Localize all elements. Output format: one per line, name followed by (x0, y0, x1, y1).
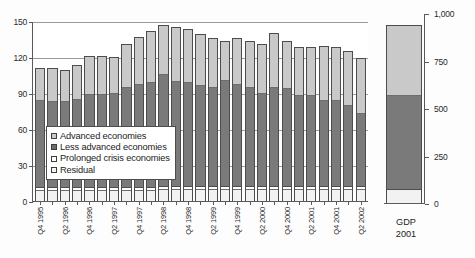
main-chart-panel: 0306090120150 Q4 1995Q2 1996Q4 1996Q2 19… (0, 0, 372, 258)
legend-item-less-advanced: Less advanced economies (51, 142, 170, 153)
y-axis-label: 90 (18, 89, 27, 99)
legend-item-advanced: Advanced economies (51, 131, 170, 142)
gdp-axis-tick (425, 157, 429, 158)
y-axis-label: 60 (18, 125, 27, 135)
bar-slot: Q4 2001 (330, 22, 342, 201)
bar-segment-residual (270, 190, 278, 201)
stacked-bar (306, 47, 316, 201)
bar-segment-residual (196, 190, 204, 201)
gdp-caption-year: 2001 (380, 228, 432, 240)
x-axis-label: Q4 2001 (332, 207, 341, 235)
stacked-bar (183, 29, 193, 201)
x-axis-tick (225, 201, 226, 205)
stacked-bar (319, 46, 329, 201)
bar-segment-less-advanced (320, 101, 328, 187)
gdp-panel: 02505007501,000 GDP 2001 (380, 0, 475, 258)
gdp-axis-label: 500 (434, 104, 448, 114)
x-axis-label: Q4 1996 (85, 207, 94, 235)
x-axis-label: Q4 1998 (184, 207, 193, 235)
x-axis-tick (324, 201, 325, 205)
x-axis-tick (102, 201, 103, 205)
bar-segment-residual (221, 190, 229, 201)
bar-slot (268, 22, 280, 201)
x-axis-tick (89, 201, 90, 205)
x-axis-tick (163, 201, 164, 205)
bar-segment-advanced (332, 48, 340, 100)
bar-segment-advanced (283, 42, 291, 89)
bar-segment-residual (332, 190, 340, 201)
stacked-bar (195, 34, 205, 201)
x-axis-tick (361, 201, 362, 205)
stacked-bar (269, 33, 279, 201)
bar-segment-advanced (85, 57, 93, 95)
bar-segment-residual (122, 191, 130, 201)
bar-segment-less-advanced (246, 88, 254, 187)
gdp-caption: GDP 2001 (380, 216, 432, 241)
bar-segment-residual (172, 190, 180, 201)
x-axis-tick (126, 201, 127, 205)
bar-segment-advanced (344, 52, 352, 106)
stacked-bar (282, 41, 292, 201)
bar-segment-less-advanced (36, 101, 44, 188)
gdp-axis-tick (425, 62, 429, 63)
bar-slot: Q4 1995 (34, 22, 46, 201)
x-axis-tick (274, 201, 275, 205)
x-axis-tick (40, 201, 41, 205)
bar-slot (194, 22, 206, 201)
x-axis-tick (250, 201, 251, 205)
bar-segment-less-advanced (295, 96, 303, 187)
bar-segment-less-advanced (196, 86, 204, 186)
legend-item-prolonged-crisis: Prolonged crisis economies (51, 153, 170, 164)
x-axis-label: Q4 1999 (233, 207, 242, 235)
stacked-bar (257, 44, 267, 201)
bar-segment-advanced (307, 48, 315, 96)
bar-segment-residual (48, 191, 56, 201)
bar-segment-residual (258, 190, 266, 201)
x-axis-tick (287, 201, 288, 205)
bar-segment-advanced (209, 39, 217, 88)
bar-segment-residual (307, 190, 315, 201)
x-axis-tick (348, 201, 349, 205)
gdp-axis-label: 0 (434, 199, 439, 209)
gdp-caption-title: GDP (380, 216, 432, 228)
legend-label-advanced: Advanced economies (60, 131, 146, 142)
bar-segment-advanced (357, 59, 365, 114)
gdp-axis-label: 750 (434, 57, 448, 67)
x-axis-label: Q4 1995 (36, 207, 45, 235)
legend-swatch-advanced (51, 133, 57, 139)
x-axis-label: Q2 2002 (356, 207, 365, 235)
stacked-bar (343, 51, 353, 201)
y-axis-label: 0 (22, 197, 27, 207)
bar-segment-advanced (196, 35, 204, 86)
bar-slot (342, 22, 354, 201)
x-axis-tick (176, 201, 177, 205)
bar-segment-advanced (159, 26, 167, 75)
bar-segment-residual (135, 191, 143, 201)
bar-segment-less-advanced (184, 83, 192, 187)
legend-swatch-residual (51, 167, 57, 173)
bar-segment-less-advanced (283, 89, 291, 187)
y-axis-label: 150 (13, 17, 27, 27)
bar-segment-residual (246, 190, 254, 201)
gdp-axis-tick (425, 204, 429, 205)
bar-segment-advanced (270, 34, 278, 88)
bar-slot: Q4 1999 (231, 22, 243, 201)
stacked-bar (245, 41, 255, 201)
bar-segment-advanced (184, 30, 192, 83)
bar-segment-residual (357, 190, 365, 201)
legend-swatch-less-advanced (51, 144, 57, 150)
bar-slot (219, 22, 231, 201)
x-axis-label: Q2 2001 (307, 207, 316, 235)
chart-figure: 0306090120150 Q4 1995Q2 1996Q4 1996Q2 19… (0, 0, 475, 258)
bar-segment-residual (110, 191, 118, 201)
bar-segment-residual (85, 191, 93, 201)
bar-segment-less-advanced (357, 114, 365, 187)
bar-segment-advanced (61, 71, 69, 102)
x-axis-tick (237, 201, 238, 205)
bar-slot (318, 22, 330, 201)
legend-label-residual: Residual (60, 165, 95, 176)
bar-segment-less-advanced (209, 88, 217, 187)
chart-legend: Advanced economies Less advanced economi… (46, 126, 176, 180)
x-axis-tick (311, 201, 312, 205)
gdp-axis-label: 1,000 (434, 9, 454, 19)
